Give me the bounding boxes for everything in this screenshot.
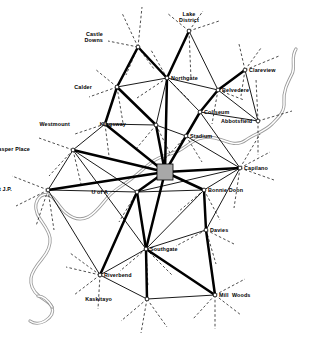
minor-route-link xyxy=(137,190,204,192)
station-node-west-jp[interactable] xyxy=(46,188,50,192)
station-label-u-of-a: U of A xyxy=(91,189,108,195)
minor-links-layer xyxy=(48,31,258,299)
minor-route-link xyxy=(206,168,240,230)
minor-route-link xyxy=(73,124,105,150)
major-route-link xyxy=(117,87,156,125)
external-route-stub xyxy=(120,249,146,271)
external-route-stub xyxy=(95,69,117,87)
external-route-stub xyxy=(12,176,48,190)
major-route-link xyxy=(165,168,240,172)
station-label-lake-district: Lake District xyxy=(172,11,206,23)
station-node-northgate[interactable] xyxy=(165,76,169,80)
external-route-stub xyxy=(141,299,147,333)
external-route-stub xyxy=(178,190,204,212)
minor-route-link xyxy=(186,136,240,168)
external-route-stub xyxy=(136,125,156,149)
external-route-stub xyxy=(74,275,100,295)
external-route-stub xyxy=(89,87,117,97)
major-route-link xyxy=(100,192,137,275)
minor-route-link xyxy=(48,150,73,190)
external-route-stub xyxy=(193,295,215,319)
station-label-kaskitayo: Kaskitayo xyxy=(85,296,112,302)
station-node-u-of-a[interactable] xyxy=(135,190,139,194)
station-node-kaskitayo[interactable] xyxy=(145,297,149,301)
station-label-belvedere: Belvedere xyxy=(222,87,249,93)
station-node-riverbend[interactable] xyxy=(98,273,102,277)
external-route-stub xyxy=(108,41,138,47)
station-label-riverbend: Riverbend xyxy=(104,272,132,278)
external-route-stub xyxy=(121,299,147,321)
station-node-belvedere[interactable] xyxy=(216,88,220,92)
station-node-abbotsfield[interactable] xyxy=(256,119,260,123)
station-label-davies: Davies xyxy=(210,227,228,233)
station-node-calder[interactable] xyxy=(115,85,119,89)
station-node-jasper-place[interactable] xyxy=(71,148,75,152)
minor-route-link xyxy=(48,190,100,275)
station-node-stadium[interactable] xyxy=(184,134,188,138)
major-route-link xyxy=(137,192,146,249)
station-label-abbotsfield: Abbotsfield xyxy=(221,118,252,124)
station-node-bonnie-doon[interactable] xyxy=(202,188,206,192)
downtown-core-layer xyxy=(157,164,173,180)
major-route-link xyxy=(206,230,215,295)
external-route-stub xyxy=(39,138,73,150)
major-route-link xyxy=(146,249,147,299)
external-route-stub xyxy=(147,299,167,327)
external-route-stub xyxy=(49,150,73,176)
station-label-stadium: Stadium xyxy=(190,133,212,139)
station-node-southgate[interactable] xyxy=(144,247,148,251)
external-route-stub xyxy=(105,124,109,156)
station-label-coliseum: Coliseum xyxy=(204,109,229,115)
station-label-castle-downs: Castle Downs xyxy=(85,31,103,43)
station-node-clareview[interactable] xyxy=(243,68,247,72)
station-node-coliseum[interactable] xyxy=(198,110,202,114)
station-node-castle-downs[interactable] xyxy=(136,45,140,49)
minor-route-link xyxy=(117,78,167,87)
station-node-capilano[interactable] xyxy=(238,166,242,170)
minor-route-link xyxy=(245,70,258,121)
station-label-northgate: Northgate xyxy=(171,75,198,81)
station-node-kingsway[interactable] xyxy=(154,123,158,127)
external-route-stub xyxy=(122,13,138,47)
external-route-stub xyxy=(98,275,100,309)
station-node-lake-district[interactable] xyxy=(187,29,191,33)
major-route-link xyxy=(204,190,206,230)
station-label-west-jp: West J.P. xyxy=(0,186,12,192)
external-route-stub xyxy=(138,7,142,47)
station-label-southgate: Southgate xyxy=(150,246,178,252)
external-route-stub xyxy=(239,44,245,70)
minor-route-link xyxy=(218,90,258,121)
minor-route-link xyxy=(147,295,215,299)
station-label-westmount: Westmount xyxy=(39,121,70,127)
station-nodes-layer xyxy=(46,29,260,301)
major-route-link xyxy=(138,47,167,78)
major-route-link xyxy=(167,31,189,78)
transit-network-map: Lake DistrictCastle DownsClareviewNorthg… xyxy=(0,0,311,340)
station-node-mill-woods[interactable] xyxy=(213,293,217,297)
major-route-link xyxy=(105,87,117,124)
major-route-link xyxy=(146,249,215,295)
major-route-link xyxy=(165,78,167,172)
station-node-davies[interactable] xyxy=(204,228,208,232)
station-label-jasper-place: Jasper Place xyxy=(0,146,30,152)
station-label-calder: Calder xyxy=(74,84,92,90)
downtown-core-marker[interactable] xyxy=(157,164,173,180)
station-label-clareview: Clareview xyxy=(249,67,276,73)
station-label-kingsway: Kingsway xyxy=(100,121,126,127)
minor-route-link xyxy=(167,78,200,112)
station-label-bonnie-doon: Bonnie Doon xyxy=(208,187,243,193)
station-label-mill-woods: Mill Woods xyxy=(219,292,251,298)
external-route-stub xyxy=(189,31,191,79)
major-route-link xyxy=(48,172,165,190)
major-route-link xyxy=(117,47,138,87)
station-label-capilano: Capilano xyxy=(244,165,268,171)
